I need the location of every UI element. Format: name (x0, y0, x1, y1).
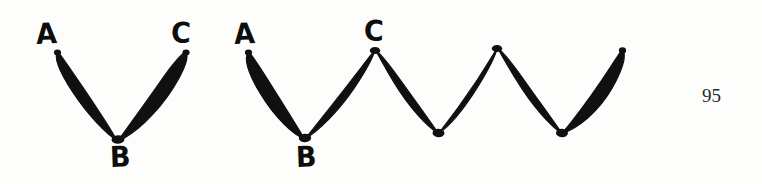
figure-v-label-c: C (171, 18, 192, 47)
vertex-end-tip (619, 47, 626, 53)
vertex-c-tip (182, 50, 189, 56)
page-number: 95 (702, 86, 721, 105)
figure-v-label-a: A (35, 19, 57, 49)
lens-arm-v2-end (562, 50, 624, 134)
lens-arm-a-b (56, 52, 117, 141)
figure-v-label-b: B (110, 142, 132, 171)
figure-page: A C B A C B 95 (0, 0, 762, 184)
lens-arm-b2-c2 (305, 50, 375, 139)
vertex-a2-tip (245, 50, 252, 56)
lens-arm-p2-v2 (497, 48, 562, 134)
figure-zigzag-label-a: A (233, 19, 255, 49)
figure-zigzag-label-b: B (296, 142, 318, 171)
vertex-c2-blob (370, 47, 380, 54)
lens-arm-c2-v1 (375, 50, 438, 134)
vertex-a-tip (54, 50, 61, 56)
lens-arm-a2-b2 (246, 52, 304, 140)
lens-arm-v1-p2 (439, 48, 498, 133)
vertex-peak-2-blob (492, 45, 502, 52)
lens-arm-c-b (118, 52, 187, 141)
figure-zigzag-label-c: C (364, 16, 384, 45)
